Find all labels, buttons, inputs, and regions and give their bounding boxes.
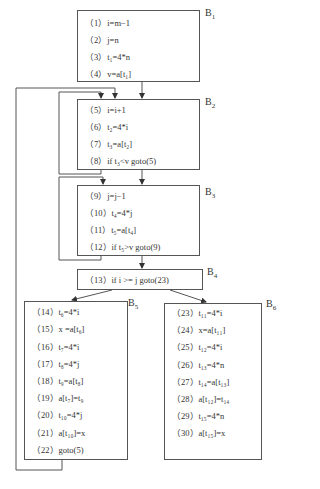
statement: （24）x=a[t₁₁] [172, 325, 225, 335]
statement: （18）t₉=a[t₈] [32, 376, 83, 386]
block-label-b6: B6 [266, 298, 276, 312]
statement: （7）t₃=a[t₂] [85, 139, 132, 149]
statement: （3）t₁=4*n [85, 52, 130, 62]
statement: （22）goto(5) [32, 445, 84, 455]
basic-block-b1: （1）i=m−1 （2）j=n （3）t₁=4*n （4）v=a[t₁] [77, 10, 200, 82]
statement: （6）t₂=4*i [85, 122, 128, 132]
statement: （25）t₁₂=4*i [172, 342, 222, 352]
statement: （30）a[t₁₅]=x [172, 428, 225, 438]
block-label-b1: B1 [205, 7, 215, 21]
statement: （8）if t₃<v goto(5) [85, 156, 156, 166]
statement: （9）j=j−1 [85, 191, 126, 201]
statement: （5）i=i+1 [85, 105, 126, 115]
basic-block-b5: （14）t₆=4*i （15）x =a[t₆] （16）t₇=4*i （17）t… [24, 301, 128, 460]
statement: （23）t₁₁=4*i [172, 308, 222, 318]
statement: （1）i=m−1 [85, 18, 130, 28]
statement: （12）if t₅>v goto(9) [85, 242, 160, 252]
statement: （14）t₆=4*i [32, 307, 79, 317]
statement: （19）a[t₇]=t₉ [32, 393, 83, 403]
statement: （15）x =a[t₆] [32, 324, 84, 334]
statement: （2）j=n [85, 35, 119, 45]
basic-block-b3: （9）j=j−1 （10）t₄=4*j （11）t₅=a[t₄] （12）if … [77, 185, 200, 256]
statement: （16）t₇=4*i [32, 342, 79, 352]
statement: （10）t₄=4*j [85, 208, 132, 218]
statement: （28）a[t₁₂]=t₁₄ [172, 394, 229, 404]
statement: （29）t₁₅=4*n [172, 411, 224, 421]
basic-block-b4: （13）if i >= j goto(23) [77, 269, 203, 290]
block-label-b4: B4 [207, 266, 217, 280]
statement: （17）t₈=4*j [32, 359, 79, 369]
statement: （20）t₁₀=4*j [32, 410, 82, 420]
statement: （11）t₅=a[t₄] [85, 225, 136, 235]
block-label-b3: B3 [205, 186, 215, 200]
block-label-b2: B2 [205, 96, 215, 110]
basic-block-b2: （5）i=i+1 （6）t₂=4*i （7）t₃=a[t₂] （8）if t₃<… [77, 99, 200, 170]
statement: （13）if i >= j goto(23) [85, 275, 169, 285]
statement: （21）a[t₁₀]=x [32, 428, 85, 438]
basic-block-b6: （23）t₁₁=4*i （24）x=a[t₁₁] （25）t₁₂=4*i （26… [164, 303, 262, 460]
statement: （27）t₁₄=a[t₁₃] [172, 377, 229, 387]
block-label-b5: B5 [128, 297, 138, 311]
statement: （4）v=a[t₁] [85, 69, 131, 79]
statement: （26）t₁₃=4*n [172, 360, 224, 370]
